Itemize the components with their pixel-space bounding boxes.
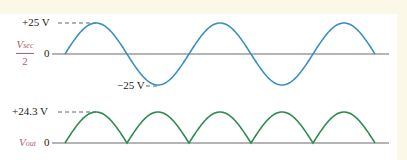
top-zero-label: 0 (44, 48, 50, 59)
vsec-subscript: sec (23, 41, 33, 50)
vsec-denominator: 2 (16, 54, 34, 67)
vout-subscript: out (26, 139, 36, 148)
top-peak-label: +25 V (22, 17, 50, 28)
vout-symbol: V (19, 136, 26, 148)
top-trough-label: −25 V (117, 80, 145, 91)
bottom-peak-label: +24.3 V (12, 106, 48, 117)
vsec-over-2-label: Vsec 2 (16, 38, 34, 67)
vout-label: Vout (19, 137, 36, 149)
waveform-plot (0, 0, 407, 160)
bottom-zero-label: 0 (44, 137, 50, 148)
output-rectified-wave (65, 112, 375, 143)
